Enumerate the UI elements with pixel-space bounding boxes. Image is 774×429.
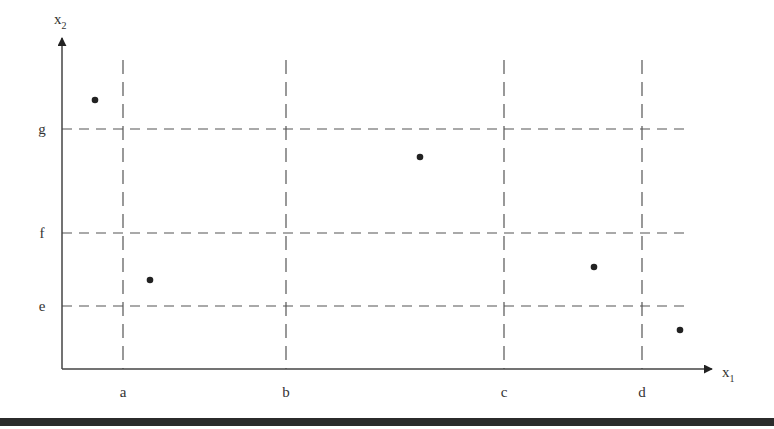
data-points — [92, 97, 684, 334]
x-tick-c: c — [501, 384, 508, 400]
y-tick-e: e — [39, 298, 46, 314]
bottom-border-bar — [0, 418, 774, 426]
x-tick-b: b — [282, 384, 290, 400]
data-point — [591, 264, 598, 271]
x-axis-label: x1 — [722, 364, 735, 384]
x-threshold-lines — [123, 60, 642, 369]
y-tick-labels: gfe — [38, 121, 46, 314]
y-tick-g: g — [38, 121, 46, 137]
y-threshold-lines — [62, 129, 688, 306]
data-point — [417, 154, 424, 161]
x-tick-d: d — [638, 384, 646, 400]
x-tick-labels: abcd — [120, 384, 647, 400]
x-tick-a: a — [120, 384, 127, 400]
y-axis-label: x2 — [54, 11, 67, 31]
data-point — [92, 97, 99, 104]
y-tick-f: f — [40, 225, 45, 241]
data-point — [677, 327, 684, 334]
partition-diagram: x1 x2 abcd gfe — [0, 0, 774, 429]
data-point — [147, 277, 154, 284]
